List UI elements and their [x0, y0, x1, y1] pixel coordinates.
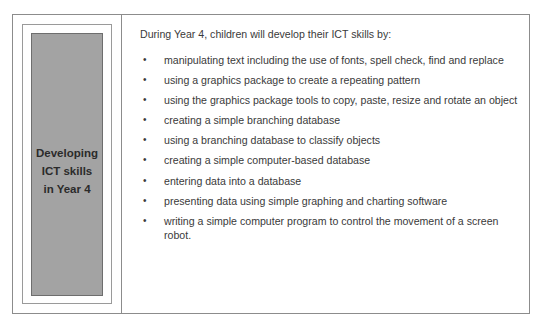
list-item-text: entering data into a database — [164, 175, 301, 187]
list-item: • creating a simple branching database — [140, 113, 525, 127]
bullet-icon: • — [143, 53, 147, 67]
list-item-text: using the graphics package tools to copy… — [164, 94, 517, 106]
list-item-text: writing a simple computer program to con… — [164, 215, 498, 241]
bullet-icon: • — [143, 113, 147, 127]
bullet-icon: • — [143, 174, 147, 188]
list-item: • creating a simple computer-based datab… — [140, 153, 525, 167]
list-item-text: creating a simple computer-based databas… — [164, 154, 370, 166]
list-item: • using a graphics package to create a r… — [140, 73, 525, 87]
list-item-text: manipulating text including the use of f… — [164, 54, 504, 66]
bullet-icon: • — [143, 194, 147, 208]
list-item-text: presenting data using simple graphing an… — [164, 195, 447, 207]
skills-list: • manipulating text including the use of… — [140, 53, 525, 242]
list-item: • writing a simple computer program to c… — [140, 214, 525, 242]
bullet-icon: • — [143, 214, 147, 228]
bullet-icon: • — [143, 133, 147, 147]
sidebar-title-line: in Year 4 — [31, 180, 103, 198]
list-item: • presenting data using simple graphing … — [140, 194, 525, 208]
list-item: • using a branching database to classify… — [140, 133, 525, 147]
list-item: • entering data into a database — [140, 174, 525, 188]
list-item-text: creating a simple branching database — [164, 114, 340, 126]
list-item: • manipulating text including the use of… — [140, 53, 525, 67]
list-item: • using the graphics package tools to co… — [140, 93, 525, 107]
main-content: During Year 4, children will develop the… — [140, 26, 525, 248]
sidebar-title: Developing ICT skills in Year 4 — [31, 144, 103, 198]
sidebar-title-line: ICT skills — [31, 162, 103, 180]
sidebar-title-line: Developing — [31, 144, 103, 162]
bullet-icon: • — [143, 153, 147, 167]
bullet-icon: • — [143, 73, 147, 87]
list-item-text: using a branching database to classify o… — [164, 134, 380, 146]
column-divider — [121, 14, 122, 314]
intro-text: During Year 4, children will develop the… — [140, 26, 525, 42]
list-item-text: using a graphics package to create a rep… — [164, 74, 420, 86]
bullet-icon: • — [143, 93, 147, 107]
